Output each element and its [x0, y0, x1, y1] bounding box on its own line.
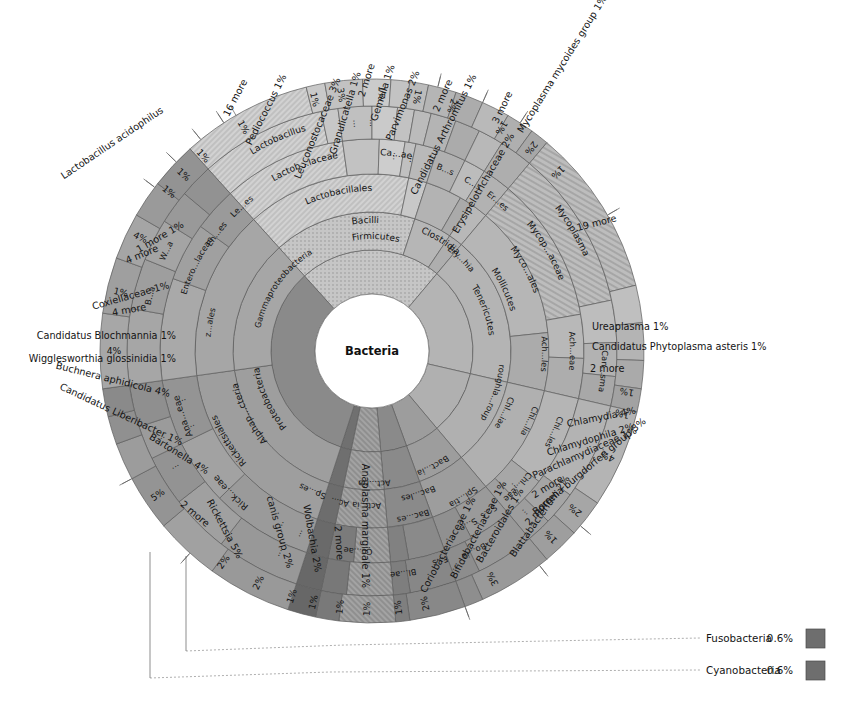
leader-line: [168, 154, 176, 162]
legend-connector: [150, 670, 700, 678]
legend-value: 0.6%: [767, 664, 793, 676]
krona-sunburst-svg[interactable]: FirmicutesBacilliLactobacillalesLactob..…: [0, 0, 848, 701]
leader-line: [483, 92, 487, 102]
leader-line: [146, 181, 155, 188]
ring-segment-label: Bacilli: [351, 215, 379, 227]
leader-line: [194, 131, 201, 140]
leader-line: [465, 607, 469, 617]
family-segment-18[interactable]: [354, 527, 391, 563]
outer-taxon-label[interactable]: Candidatus Phytoplasma asteris 1%: [592, 341, 766, 352]
legend-swatch[interactable]: [806, 661, 825, 680]
legend-swatch[interactable]: [806, 629, 825, 648]
species-segment-12[interactable]: [610, 285, 643, 325]
leader-line: [122, 479, 132, 484]
genus-segment-29[interactable]: [127, 308, 163, 385]
ring-segment-label: Ach...les: [539, 336, 550, 372]
leader-line: [539, 565, 546, 574]
outer-taxon-label[interactable]: Anaplasma marginale 1%: [360, 464, 371, 588]
ring-segment-label: ...: [391, 152, 402, 161]
outer-taxon-label[interactable]: 2 more: [590, 363, 624, 374]
outer-taxon-label[interactable]: Wigglesworthia glossinidia 1%: [29, 353, 176, 364]
segment-percent: 1%: [361, 601, 372, 616]
center-label: Bacteria: [345, 344, 399, 358]
segment-percent: 1%: [333, 599, 346, 615]
ring-segment-label: ...: [351, 119, 362, 128]
legend-value: 0.6%: [767, 632, 793, 644]
outer-taxon-label[interactable]: Ureaplasma 1%: [592, 321, 668, 332]
legend-label[interactable]: Fusobacteria: [706, 632, 772, 644]
family-segment-9[interactable]: [546, 314, 584, 358]
leader-line: [580, 526, 588, 533]
krona-chart-container: FirmicutesBacilliLactobacillalesLactob..…: [0, 0, 848, 701]
segment-percent: 1%: [618, 386, 634, 399]
family-segment-1[interactable]: [342, 139, 379, 176]
outer-taxon-label[interactable]: Mycoplasma mycoides group 1%: [515, 0, 609, 135]
segment-percent: 1%: [392, 600, 404, 616]
outer-taxon-label[interactable]: Lactobacillus acidophilus: [59, 104, 165, 181]
outer-taxon-label[interactable]: Candidatus Blochmannia 1%: [37, 330, 176, 341]
legend-connector: [186, 638, 700, 651]
